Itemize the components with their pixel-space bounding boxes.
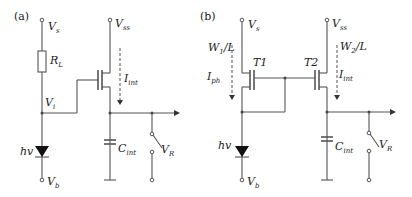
iph-label: Iph [206, 70, 220, 85]
vi-label: Vi [45, 96, 55, 111]
cint-label: Cint [118, 142, 136, 157]
panel-a: (a) Vs RL Vi hv Vb Vss [14, 10, 180, 190]
panel-b-label: (b) [200, 10, 216, 23]
hv-label: hv [20, 145, 34, 158]
vs-terminal [240, 18, 244, 22]
vs-label: Vs [248, 18, 260, 33]
vs-terminal [40, 18, 44, 22]
iint-label: Iint [123, 72, 138, 87]
vr-label: VR [379, 138, 393, 153]
hv-label: hv [218, 139, 232, 152]
vss-label: Vss [115, 17, 131, 32]
t1-label: T1 [253, 56, 267, 69]
vr-label: VR [161, 143, 175, 158]
circuit-diagram: (a) Vs RL Vi hv Vb Vss [0, 0, 412, 197]
iint-label: Iint [338, 68, 353, 83]
vb-label: Vb [247, 175, 260, 190]
panel-b: (b) Vs W1/L Iph T1 T2 Vss [200, 10, 396, 190]
t2-label: T2 [304, 56, 318, 69]
circuit-figure: (a) Vs RL Vi hv Vb Vss [0, 0, 412, 197]
vss-terminal [325, 18, 329, 22]
vs-label: Vs [48, 20, 60, 35]
cint-label: Cint [335, 140, 353, 155]
vss-label: Vss [332, 17, 348, 32]
photodiode-icon [35, 146, 49, 157]
vb-terminal [240, 178, 244, 182]
panel-a-label: (a) [14, 10, 29, 23]
resistor-rl [38, 51, 46, 72]
rl-label: RL [49, 54, 63, 69]
vb-terminal [40, 178, 44, 182]
photodiode-icon [235, 146, 249, 157]
vss-terminal [108, 18, 112, 22]
w1l-label: W1/L [208, 41, 235, 56]
vb-label: Vb [47, 175, 60, 190]
w2l-label: W2/L [340, 40, 367, 55]
